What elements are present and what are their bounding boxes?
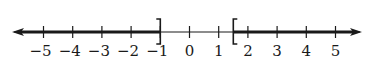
tick-label: −3 (88, 42, 110, 60)
tick-label: 4 (302, 42, 312, 60)
tick-label: 1 (214, 42, 224, 60)
tick-label: −4 (59, 42, 81, 60)
tick-label: −2 (117, 42, 139, 60)
tick-labels: −5−4−3−2−1012345 (29, 42, 340, 60)
tick-label: 5 (331, 42, 341, 60)
tick-label: 0 (185, 42, 195, 60)
tick-label: 2 (243, 42, 253, 60)
tick-label: −5 (29, 42, 51, 60)
number-line-diagram: −5−4−3−2−1012345 (0, 0, 371, 69)
tick-label: 3 (272, 42, 282, 60)
